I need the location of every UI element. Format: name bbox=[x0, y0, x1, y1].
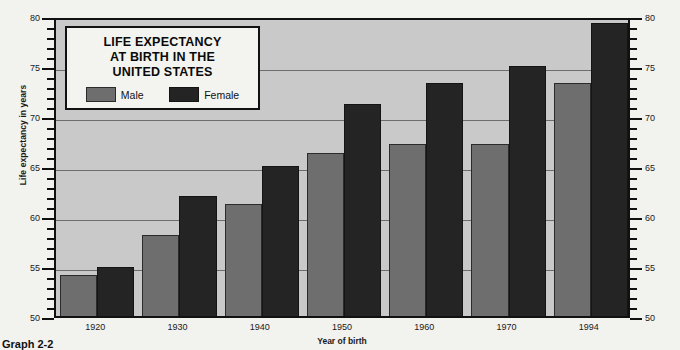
x-axis-tick-labels: 1920193019401950196019701994 bbox=[54, 322, 630, 336]
y-tick-mark-80 bbox=[630, 18, 642, 20]
y-tick-label-65: 65 bbox=[645, 164, 667, 172]
y-tick-mark-72 bbox=[630, 98, 637, 100]
bar-group-1960 bbox=[389, 20, 463, 316]
bar-group-1970 bbox=[471, 20, 545, 316]
y-tick-mark-74 bbox=[630, 78, 637, 80]
x-axis-label: Year of birth bbox=[54, 336, 630, 346]
bar-female-1940 bbox=[262, 166, 299, 316]
y-tick-mark-60 bbox=[42, 218, 54, 220]
y-tick-mark-54 bbox=[630, 278, 637, 280]
y-tick-mark-62 bbox=[630, 198, 637, 200]
y-tick-mark-59 bbox=[630, 228, 637, 230]
y-tick-label-50: 50 bbox=[645, 314, 667, 322]
y-tick-mark-75 bbox=[42, 68, 54, 70]
y-tick-mark-77 bbox=[630, 48, 637, 50]
bar-female-1930 bbox=[179, 196, 216, 316]
y-tick-label-70: 70 bbox=[645, 114, 667, 122]
y-tick-mark-53 bbox=[47, 288, 54, 290]
x-tick-label-1994: 1994 bbox=[559, 322, 619, 332]
bar-group-1950 bbox=[307, 20, 381, 316]
y-tick-mark-75 bbox=[630, 68, 642, 70]
bar-group-1994 bbox=[554, 20, 628, 316]
y-tick-mark-52 bbox=[630, 298, 637, 300]
y-tick-mark-76 bbox=[47, 58, 54, 60]
y-tick-mark-69 bbox=[630, 128, 637, 130]
y-tick-mark-70 bbox=[630, 118, 642, 120]
y-tick-mark-63 bbox=[47, 188, 54, 190]
y-tick-mark-66 bbox=[630, 158, 637, 160]
y-tick-mark-79 bbox=[630, 28, 637, 30]
bar-male-1940 bbox=[225, 204, 262, 316]
y-tick-label-55: 55 bbox=[18, 264, 40, 272]
chart-figure: Life expectancy in years 50556065707580 … bbox=[0, 0, 680, 350]
bar-male-1930 bbox=[142, 235, 179, 316]
y-tick-mark-54 bbox=[47, 278, 54, 280]
chart-title: LIFE EXPECTANCYAT BIRTH IN THEUNITED STA… bbox=[73, 35, 252, 80]
bar-female-1920 bbox=[97, 267, 134, 316]
x-tick-label-1940: 1940 bbox=[230, 322, 290, 332]
legend-swatch-female-icon bbox=[169, 87, 199, 102]
y-tick-mark-74 bbox=[47, 78, 54, 80]
y-tick-mark-51 bbox=[630, 308, 637, 310]
bar-male-1960 bbox=[389, 144, 426, 316]
bar-female-1960 bbox=[426, 83, 463, 316]
y-tick-mark-67 bbox=[47, 148, 54, 150]
bar-male-1970 bbox=[471, 144, 508, 316]
bar-male-1994 bbox=[554, 83, 591, 316]
y-tick-label-75: 75 bbox=[18, 64, 40, 72]
y-tick-label-70: 70 bbox=[18, 114, 40, 122]
y-axis-left-tick-labels: 50556065707580 bbox=[18, 18, 40, 318]
legend-item-male: Male bbox=[86, 87, 144, 102]
y-tick-mark-57 bbox=[630, 248, 637, 250]
bar-female-1994 bbox=[591, 23, 628, 316]
y-axis-right-tick-labels: 50556065707580 bbox=[645, 18, 667, 318]
y-tick-mark-62 bbox=[47, 198, 54, 200]
y-tick-mark-65 bbox=[630, 168, 642, 170]
bar-male-1920 bbox=[60, 275, 97, 316]
y-tick-label-65: 65 bbox=[18, 164, 40, 172]
y-tick-mark-64 bbox=[630, 178, 637, 180]
y-tick-mark-63 bbox=[630, 188, 637, 190]
bar-female-1970 bbox=[509, 66, 546, 316]
x-tick-label-1970: 1970 bbox=[477, 322, 537, 332]
figure-caption: Graph 2-2 bbox=[2, 338, 53, 350]
y-tick-mark-52 bbox=[47, 298, 54, 300]
y-tick-label-60: 60 bbox=[18, 214, 40, 222]
y-tick-mark-61 bbox=[47, 208, 54, 210]
y-tick-mark-71 bbox=[47, 108, 54, 110]
y-tick-mark-77 bbox=[47, 48, 54, 50]
chart-title-line-0: LIFE EXPECTANCY bbox=[73, 35, 252, 50]
y-tick-mark-57 bbox=[47, 248, 54, 250]
y-tick-mark-68 bbox=[47, 138, 54, 140]
y-tick-label-80: 80 bbox=[645, 14, 667, 22]
y-tick-mark-51 bbox=[47, 308, 54, 310]
y-tick-mark-53 bbox=[630, 288, 637, 290]
y-tick-mark-73 bbox=[630, 88, 637, 90]
legend-label-male: Male bbox=[121, 89, 144, 101]
chart-title-line-1: AT BIRTH IN THE bbox=[73, 50, 252, 65]
legend-item-female: Female bbox=[169, 87, 239, 102]
y-tick-mark-58 bbox=[630, 238, 637, 240]
y-tick-mark-79 bbox=[47, 28, 54, 30]
x-tick-label-1960: 1960 bbox=[394, 322, 454, 332]
legend: Male Female bbox=[73, 87, 252, 102]
y-tick-mark-67 bbox=[630, 148, 637, 150]
y-tick-mark-55 bbox=[42, 268, 54, 270]
y-tick-label-75: 75 bbox=[645, 64, 667, 72]
y-tick-mark-65 bbox=[42, 168, 54, 170]
y-tick-mark-64 bbox=[47, 178, 54, 180]
bar-male-1950 bbox=[307, 153, 344, 316]
y-tick-mark-73 bbox=[47, 88, 54, 90]
legend-swatch-male-icon bbox=[86, 87, 116, 102]
chart-title-line-2: UNITED STATES bbox=[73, 65, 252, 80]
y-axis-right-ticks bbox=[630, 18, 642, 318]
y-tick-mark-59 bbox=[47, 228, 54, 230]
y-axis-left-ticks bbox=[42, 18, 54, 318]
y-tick-mark-58 bbox=[47, 238, 54, 240]
y-tick-mark-50 bbox=[42, 318, 54, 320]
y-tick-mark-80 bbox=[42, 18, 54, 20]
y-tick-mark-71 bbox=[630, 108, 637, 110]
y-tick-mark-50 bbox=[630, 318, 642, 320]
y-tick-label-55: 55 bbox=[645, 264, 667, 272]
y-tick-mark-60 bbox=[630, 218, 642, 220]
